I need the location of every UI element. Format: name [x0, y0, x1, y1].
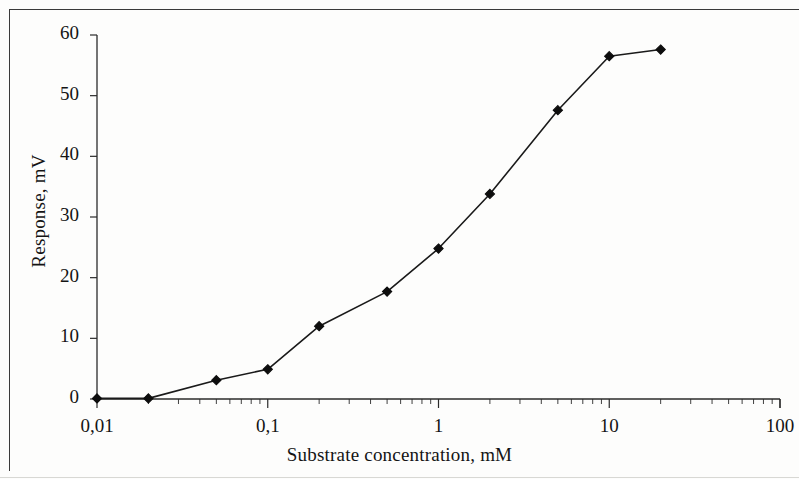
y-axis-tick-label: 0 [39, 386, 79, 408]
y-axis-tick-label: 60 [39, 22, 79, 44]
data-point-marker [212, 376, 221, 385]
x-axis-tick-label: 100 [750, 415, 799, 437]
figure-page: Response, mV Substrate concentration, mM… [0, 0, 799, 479]
y-axis-tick-label: 50 [39, 83, 79, 105]
x-axis-tick-label: 1 [409, 415, 469, 437]
x-axis-tick-label: 0,01 [67, 415, 127, 437]
line-chart-svg [0, 0, 799, 479]
data-point-marker [656, 45, 665, 54]
data-series-line [97, 50, 661, 399]
x-axis-tick-label: 10 [579, 415, 639, 437]
data-point-marker [144, 394, 153, 403]
y-axis-tick-label: 20 [39, 265, 79, 287]
y-axis-tick-label: 40 [39, 143, 79, 165]
x-axis-tick-label: 0,1 [238, 415, 298, 437]
chart-plot-area [0, 0, 799, 479]
data-point-marker [92, 394, 101, 403]
y-axis-tick-label: 30 [39, 204, 79, 226]
x-axis-title: Substrate concentration, mM [0, 444, 799, 466]
y-axis-tick-label: 10 [39, 325, 79, 347]
